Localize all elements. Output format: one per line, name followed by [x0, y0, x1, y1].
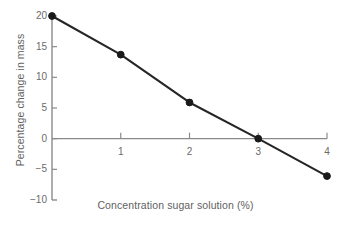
y-axis-title: Percentage change in mass — [14, 5, 28, 195]
data-point-marker — [255, 135, 262, 142]
x-tick-label: 3 — [255, 147, 261, 157]
x-tick-label: 2 — [187, 147, 193, 157]
x-tick-label: 1 — [118, 147, 124, 157]
chart-container: 20151050−5−10 1234 Concentration sugar s… — [0, 0, 351, 236]
data-point-marker — [324, 173, 331, 180]
axis-layer — [52, 16, 327, 200]
x-axis-title: Concentration sugar solution (%) — [0, 199, 351, 211]
data-point-marker — [117, 51, 124, 58]
x-tick-label: 4 — [324, 147, 330, 157]
data-point-marker — [186, 99, 193, 106]
data-point-marker — [49, 13, 56, 20]
